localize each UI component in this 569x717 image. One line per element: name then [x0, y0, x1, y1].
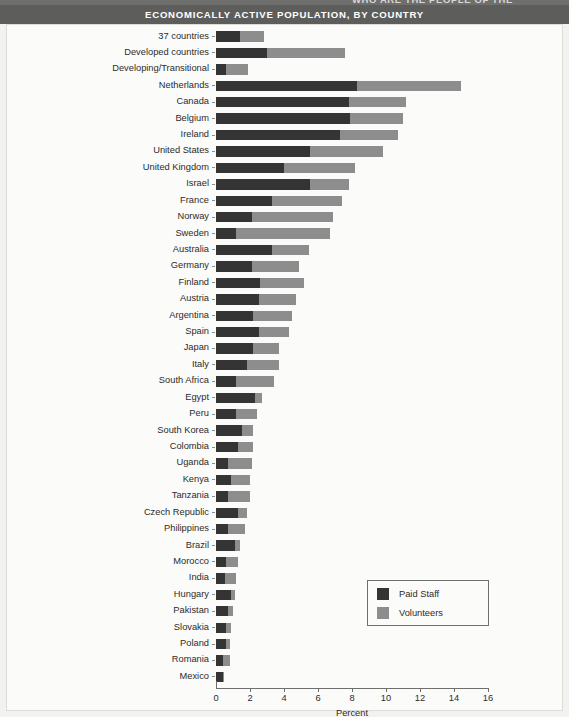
page-title: ECONOMICALLY ACTIVE POPULATION, BY COUNT… [0, 9, 569, 20]
bar-segment-volunteers [225, 573, 237, 583]
bar-segment-volunteers [226, 639, 229, 649]
x-axis-tick [386, 688, 387, 692]
bar-segment-paid-staff [216, 393, 255, 403]
bar-row: Developed countries [7, 45, 564, 60]
stacked-bar [216, 672, 225, 682]
bar-segment-volunteers [231, 590, 234, 600]
y-axis-tick [212, 496, 215, 497]
bar-row: Developing/Transitional [7, 62, 564, 77]
stacked-bar-chart: 37 countriesDeveloped countriesDevelopin… [7, 25, 564, 712]
bar-row: Morocco [7, 554, 564, 569]
y-axis-tick [212, 430, 215, 431]
bar-row-label: United Kingdom [143, 162, 209, 173]
bar-segment-paid-staff [216, 508, 238, 518]
y-axis-tick [212, 348, 215, 349]
bar-segment-volunteers [253, 343, 279, 353]
bar-segment-paid-staff [216, 212, 252, 222]
bar-row-label: Poland [180, 638, 209, 649]
x-axis-tick-label: 2 [247, 693, 252, 703]
bar-row-label: Spain [185, 326, 209, 337]
bar-segment-paid-staff [216, 130, 340, 140]
bar-row: Colombia [7, 440, 564, 455]
y-axis-tick [212, 151, 215, 152]
bar-row: Ireland [7, 128, 564, 143]
bar-segment-paid-staff [216, 48, 267, 58]
bar-segment-paid-staff [216, 81, 357, 91]
bar-segment-volunteers [228, 491, 250, 501]
bar-row: Japan [7, 341, 564, 356]
bar-row: Netherlands [7, 78, 564, 93]
stacked-bar [216, 294, 296, 304]
bar-segment-paid-staff [216, 606, 228, 616]
bar-row: Czech Republic [7, 505, 564, 520]
bar-segment-volunteers [310, 146, 383, 156]
stacked-bar [216, 524, 245, 534]
y-axis-tick [212, 479, 215, 480]
y-axis-tick [212, 36, 215, 37]
legend-swatch-paid-staff [377, 588, 389, 600]
legend-label-volunteers: Volunteers [399, 607, 443, 619]
bar-row-label: Tanzania [172, 490, 209, 501]
bar-segment-paid-staff [216, 31, 240, 41]
bar-segment-volunteers [242, 425, 254, 435]
stacked-bar [216, 163, 355, 173]
stacked-bar [216, 327, 289, 337]
stacked-bar [216, 261, 299, 271]
bar-segment-volunteers [252, 261, 300, 271]
y-axis-tick [212, 676, 215, 677]
bar-segment-paid-staff [216, 590, 231, 600]
bar-segment-paid-staff [216, 278, 260, 288]
chart-title-band: ECONOMICALLY ACTIVE POPULATION, BY COUNT… [0, 5, 569, 24]
bar-segment-volunteers [253, 311, 292, 321]
stacked-bar [216, 425, 253, 435]
bar-segment-paid-staff [216, 540, 235, 550]
x-axis-tick-label: 14 [449, 693, 459, 703]
y-axis-tick [212, 332, 215, 333]
bar-segment-paid-staff [216, 294, 259, 304]
bar-segment-paid-staff [216, 557, 226, 567]
bar-segment-volunteers [226, 623, 231, 633]
stacked-bar [216, 31, 264, 41]
bar-segment-volunteers [252, 212, 334, 222]
x-axis-tick [454, 688, 455, 692]
stacked-bar [216, 442, 253, 452]
x-axis-tick-label: 0 [213, 693, 218, 703]
x-axis-tick-label: 16 [483, 693, 493, 703]
x-axis-title: Percent [216, 708, 488, 717]
stacked-bar [216, 491, 250, 501]
bar-segment-paid-staff [216, 179, 310, 189]
bar-row-label: Mexico [180, 671, 209, 682]
bar-row: 37 countries [7, 29, 564, 44]
bar-row: South Africa [7, 374, 564, 389]
bar-segment-paid-staff [216, 425, 242, 435]
stacked-bar [216, 245, 310, 255]
bar-row: Tanzania [7, 489, 564, 504]
bar-row: Poland [7, 637, 564, 652]
bar-segment-paid-staff [216, 623, 226, 633]
bar-segment-volunteers [284, 163, 355, 173]
stacked-bar [216, 196, 342, 206]
bar-segment-volunteers [272, 196, 342, 206]
bar-row-label: South Africa [159, 375, 209, 386]
bar-row: United Kingdom [7, 160, 564, 175]
bar-row-label: Hungary [174, 589, 209, 600]
x-axis-tick-label: 6 [315, 693, 320, 703]
bar-row-label: France [180, 195, 209, 206]
x-axis-tick [420, 688, 421, 692]
bar-segment-paid-staff [216, 113, 350, 123]
stacked-bar [216, 146, 383, 156]
bar-row-label: Czech Republic [144, 507, 209, 518]
y-axis-tick [212, 447, 215, 448]
stacked-bar [216, 573, 236, 583]
bar-segment-volunteers [228, 606, 233, 616]
bar-segment-volunteers [228, 524, 245, 534]
bar-segment-volunteers [340, 130, 398, 140]
y-axis-tick [212, 414, 215, 415]
bar-segment-paid-staff [216, 655, 223, 665]
bar-segment-volunteers [267, 48, 345, 58]
bar-row: Germany [7, 259, 564, 274]
bar-segment-volunteers [272, 245, 309, 255]
y-axis-tick [212, 463, 215, 464]
bar-segment-paid-staff [216, 475, 231, 485]
bar-row: Finland [7, 275, 564, 290]
